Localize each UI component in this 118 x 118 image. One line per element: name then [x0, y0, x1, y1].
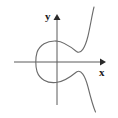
y-axis-label: y — [45, 11, 51, 22]
curve-plot — [0, 0, 118, 118]
elliptic-curve-figure: y x — [0, 0, 118, 118]
x-axis — [14, 59, 106, 66]
y-axis — [54, 14, 61, 105]
curve-branch-lower — [56, 71, 96, 112]
y-axis-arrow-icon — [54, 14, 61, 20]
x-axis-arrow-icon — [100, 59, 106, 66]
curve-branch-upper — [56, 7, 94, 52]
x-axis-label: x — [99, 67, 105, 78]
